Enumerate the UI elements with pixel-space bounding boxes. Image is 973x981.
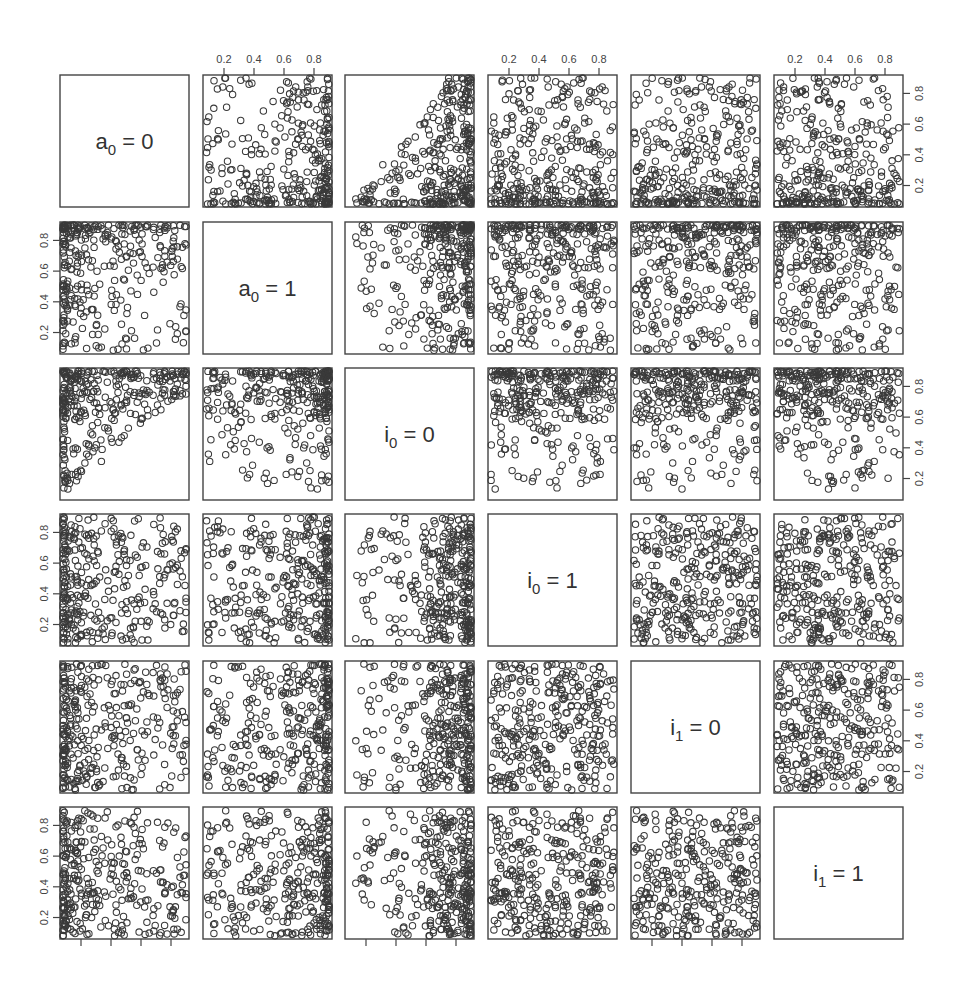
- scatter-panel: [203, 75, 332, 207]
- axis-tick-label: 0.6: [913, 409, 925, 424]
- scatter-panel: [345, 514, 474, 646]
- scatter-panel: [631, 75, 760, 207]
- scatterplot-matrix: a0 = 0a0 = 1i0 = 0i0 = 1i1 = 0i1 = 10.20…: [0, 0, 973, 981]
- axis-tick-label: 0.4: [817, 53, 832, 65]
- scatter-panel: [631, 807, 760, 939]
- axis-tick-label: 0.6: [913, 702, 925, 717]
- scatter-panel: [203, 661, 332, 793]
- axis-tick-label: 0.6: [913, 116, 925, 131]
- axis-tick-label: 0.4: [913, 440, 925, 455]
- axis-tick-label: 0.8: [913, 379, 925, 394]
- axis-tick-label: 0.2: [913, 178, 925, 193]
- diagonal-label-panel: i0 = 0: [345, 368, 474, 500]
- axis-tick-label: 0.4: [913, 733, 925, 748]
- scatter-panel: [631, 368, 760, 500]
- axis-tick-label: 0.2: [787, 53, 802, 65]
- scatter-panel: [60, 514, 189, 646]
- diagonal-label-panel: a0 = 1: [203, 222, 332, 354]
- axis-tick-label: 0.8: [913, 672, 925, 687]
- axis-tick-label: 0.4: [38, 294, 50, 309]
- axis-tick-label: 0.6: [38, 555, 50, 570]
- axis-tick-label: 0.2: [38, 617, 50, 632]
- scatter-panel: [488, 222, 617, 354]
- axis-tick-label: 0.2: [913, 764, 925, 779]
- axis-tick-label: 0.6: [38, 263, 50, 278]
- axis-tick-label: 0.8: [591, 53, 606, 65]
- diagonal-label-panel: i1 = 1: [774, 807, 903, 939]
- axis-tick-label: 0.2: [501, 53, 516, 65]
- scatter-panel: [60, 661, 189, 793]
- scatter-panel: [203, 368, 332, 500]
- scatter-panel: [631, 514, 760, 646]
- scatter-panel: [488, 661, 617, 793]
- scatter-panel: [203, 514, 332, 646]
- axis-tick-label: 0.6: [561, 53, 576, 65]
- axis-tick-label: 0.4: [38, 586, 50, 601]
- axis-tick-label: 0.2: [216, 53, 231, 65]
- scatter-panel: [60, 807, 189, 939]
- axis-tick-label: 0.4: [38, 879, 50, 894]
- axis-tick-label: 0.8: [306, 53, 321, 65]
- scatter-panel: [488, 75, 617, 207]
- axis-tick-label: 0.8: [38, 818, 50, 833]
- scatter-panel: [60, 222, 189, 354]
- scatter-panel: [345, 661, 474, 793]
- scatter-panel: [488, 368, 617, 500]
- diagonal-label-panel: a0 = 0: [60, 75, 189, 207]
- axis-tick-label: 0.8: [38, 233, 50, 248]
- axis-tick-label: 0.4: [531, 53, 546, 65]
- diagonal-label-panel: i1 = 0: [631, 661, 760, 793]
- axis-tick-label: 0.2: [38, 325, 50, 340]
- scatter-panel: [774, 222, 903, 354]
- scatter-panel: [345, 75, 474, 207]
- variable-label: a0 = 0: [96, 129, 154, 158]
- axis-tick-label: 0.6: [847, 53, 862, 65]
- scatter-panel: [774, 368, 903, 500]
- scatter-panel: [774, 661, 903, 793]
- axis-tick-label: 0.6: [38, 848, 50, 863]
- scatter-panel: [774, 75, 903, 207]
- axis-tick-label: 0.2: [38, 910, 50, 925]
- scatter-panel: [345, 222, 474, 354]
- scatter-panel: [488, 807, 617, 939]
- diagonal-label-panel: i0 = 1: [488, 514, 617, 646]
- axis-tick-label: 0.8: [877, 53, 892, 65]
- axis-tick-label: 0.8: [38, 525, 50, 540]
- axis-tick-label: 0.8: [913, 86, 925, 101]
- scatter-panel: [774, 514, 903, 646]
- axis-tick-label: 0.2: [913, 471, 925, 486]
- variable-label: a0 = 1: [239, 276, 297, 305]
- axis-tick-label: 0.6: [276, 53, 291, 65]
- scatter-panel: [345, 807, 474, 939]
- scatter-panel: [203, 807, 332, 939]
- axis-tick-label: 0.4: [246, 53, 261, 65]
- scatter-panel: [631, 222, 760, 354]
- axis-tick-label: 0.4: [913, 147, 925, 162]
- scatter-panel: [60, 368, 189, 500]
